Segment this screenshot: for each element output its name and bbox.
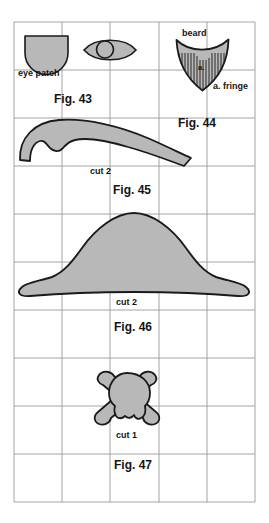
label-beard: beard [182,28,207,38]
skull-and-crossbones-shape [95,372,160,425]
label-cut-1-skull: cut 1 [116,430,137,440]
eye-shape-group [84,40,136,60]
label-a-mark: a. [198,63,204,72]
label-cut-2-hat: cut 2 [116,297,137,307]
label-fig-43: Fig. 43 [54,92,92,106]
skull-shape [109,373,150,419]
pattern-canvas: eye patch beard a. a. fringe Fig. 43 Fig… [0,0,269,523]
label-fig-47: Fig. 47 [114,458,152,472]
label-cut-2-moustache: cut 2 [90,166,111,176]
pattern-sheet: eye patch beard a. a. fringe Fig. 43 Fig… [0,0,269,523]
eye-pupil [97,41,114,58]
label-fig-46: Fig. 46 [114,320,152,334]
moustache-shape [20,120,191,166]
label-eye-patch: eye patch [18,68,60,78]
label-fig-45: Fig. 45 [113,183,151,197]
pirate-hat-shape [19,213,249,296]
label-a-fringe: a. fringe [213,81,248,91]
label-fig-44: Fig. 44 [178,116,216,130]
